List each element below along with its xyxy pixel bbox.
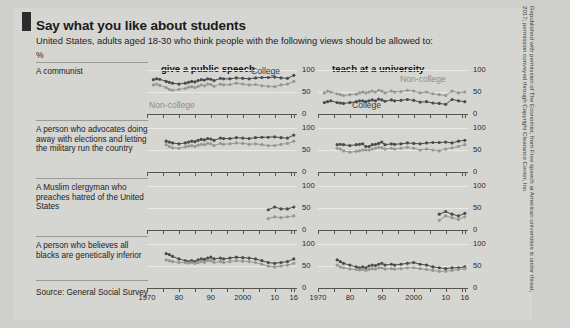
x-tick-label: 2000 xyxy=(400,293,428,302)
y-tick-label: 100 xyxy=(473,65,486,74)
x-tick xyxy=(398,231,399,234)
y-tick-label: 0 xyxy=(302,225,306,234)
x-tick xyxy=(195,289,196,292)
x-tick xyxy=(259,231,260,234)
y-tick-label: 50 xyxy=(302,261,310,270)
x-tick xyxy=(243,231,244,234)
x-tick xyxy=(465,231,466,234)
x-tick xyxy=(462,115,463,118)
y-tick-label: 50 xyxy=(473,261,481,270)
x-tick xyxy=(430,289,431,292)
x-tick-label: 1970 xyxy=(133,293,161,302)
x-tick xyxy=(414,173,415,176)
x-tick xyxy=(294,173,295,176)
x-tick xyxy=(211,289,212,292)
x-tick-label: 2000 xyxy=(229,293,257,302)
row-label: A person who believes all blacks are gen… xyxy=(36,241,148,260)
chart-panel: 1005001970809020001016 xyxy=(147,244,327,304)
x-tick xyxy=(382,231,383,234)
series-plot xyxy=(147,128,297,172)
x-tick xyxy=(147,231,148,234)
x-tick xyxy=(382,115,383,118)
x-tick xyxy=(179,231,180,234)
series-label-noncollege: Non-college xyxy=(149,100,195,110)
unit-label: % xyxy=(36,50,44,60)
x-tick xyxy=(446,289,447,292)
series-label-noncollege: Non-college xyxy=(400,74,446,84)
x-tick xyxy=(195,115,196,118)
y-tick-label: 0 xyxy=(473,225,477,234)
x-tick xyxy=(465,173,466,176)
x-tick xyxy=(382,289,383,292)
chart-card: Say what you like about students United … xyxy=(14,8,532,320)
economist-red-mark xyxy=(22,12,31,31)
row-divider xyxy=(36,62,148,63)
y-tick-label: 100 xyxy=(473,181,486,190)
y-tick-label: 100 xyxy=(302,181,315,190)
x-tick xyxy=(147,173,148,176)
credit-note: Republished with permission of The Econo… xyxy=(521,6,536,306)
x-tick xyxy=(163,231,164,234)
x-tick xyxy=(430,115,431,118)
x-tick xyxy=(318,289,319,292)
y-tick-label: 50 xyxy=(473,203,481,212)
x-tick xyxy=(147,289,148,292)
x-tick xyxy=(414,231,415,234)
x-tick xyxy=(294,289,295,292)
x-tick xyxy=(294,231,295,234)
series-label-college: College xyxy=(352,100,381,110)
y-tick-label: 50 xyxy=(473,87,481,96)
x-tick xyxy=(462,289,463,292)
x-tick xyxy=(179,115,180,118)
x-tick xyxy=(334,173,335,176)
x-tick xyxy=(465,115,466,118)
x-tick xyxy=(398,173,399,176)
chart-panel: 100500CollegeNon-college xyxy=(147,70,327,130)
x-tick xyxy=(275,231,276,234)
x-tick xyxy=(318,115,319,118)
chart-panel: 100500CollegeNon-college xyxy=(318,70,498,130)
x-tick xyxy=(334,231,335,234)
row-divider xyxy=(36,280,148,281)
x-tick xyxy=(414,115,415,118)
x-tick xyxy=(227,173,228,176)
x-tick xyxy=(275,115,276,118)
row-divider xyxy=(36,120,148,121)
x-tick xyxy=(163,289,164,292)
series-label-college: College xyxy=(251,66,280,76)
x-tick xyxy=(211,115,212,118)
x-tick xyxy=(430,173,431,176)
y-tick-label: 0 xyxy=(473,167,477,176)
x-tick xyxy=(366,115,367,118)
x-tick xyxy=(350,173,351,176)
x-tick xyxy=(227,289,228,292)
x-tick xyxy=(350,289,351,292)
x-tick xyxy=(259,173,260,176)
x-tick xyxy=(382,173,383,176)
x-tick xyxy=(334,289,335,292)
x-tick-label: 80 xyxy=(165,293,193,302)
x-tick xyxy=(446,173,447,176)
x-tick xyxy=(366,173,367,176)
chart-page: Say what you like about students United … xyxy=(0,0,570,328)
chart-panel: 100500 xyxy=(147,186,327,246)
y-tick-label: 100 xyxy=(473,123,486,132)
x-tick xyxy=(446,231,447,234)
x-tick xyxy=(462,173,463,176)
x-tick xyxy=(291,231,292,234)
x-tick xyxy=(465,289,466,292)
x-tick xyxy=(398,115,399,118)
y-tick-label: 50 xyxy=(302,145,310,154)
x-tick xyxy=(318,231,319,234)
x-tick xyxy=(334,115,335,118)
x-tick xyxy=(446,115,447,118)
row-label: A communist xyxy=(36,67,148,77)
x-tick xyxy=(318,173,319,176)
x-tick xyxy=(259,115,260,118)
x-tick xyxy=(179,173,180,176)
x-tick xyxy=(414,289,415,292)
x-tick xyxy=(243,173,244,176)
x-tick xyxy=(147,115,148,118)
x-tick-label: 90 xyxy=(197,293,225,302)
x-tick xyxy=(243,289,244,292)
